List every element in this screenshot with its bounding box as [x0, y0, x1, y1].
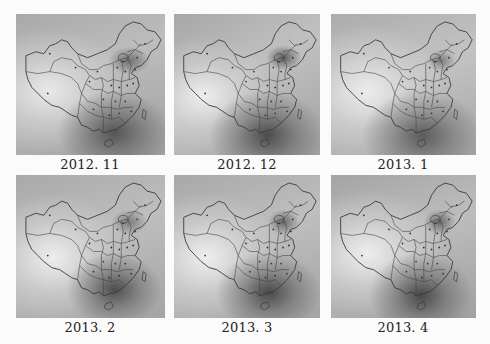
map-panel-2013-2	[16, 175, 165, 318]
map-panel-2013-1	[331, 14, 476, 155]
china-map-outline	[16, 175, 165, 318]
china-map-outline	[174, 14, 320, 155]
china-map-outline	[16, 14, 165, 155]
panel-caption: 2013. 4	[328, 320, 478, 335]
map-panel-2013-3	[174, 175, 320, 318]
panel-caption: 2013. 1	[328, 157, 478, 172]
china-map-outline	[331, 14, 476, 155]
panel-caption: 2013. 2	[15, 320, 165, 335]
panel-caption: 2012. 12	[172, 157, 322, 172]
map-panel-2013-4	[331, 175, 476, 318]
panel-caption: 2013. 3	[172, 320, 322, 335]
china-map-outline	[174, 175, 320, 318]
map-panel-2012-11	[16, 14, 165, 155]
china-map-outline	[331, 175, 476, 318]
map-panel-2012-12	[174, 14, 320, 155]
panel-caption: 2012. 11	[15, 157, 165, 172]
